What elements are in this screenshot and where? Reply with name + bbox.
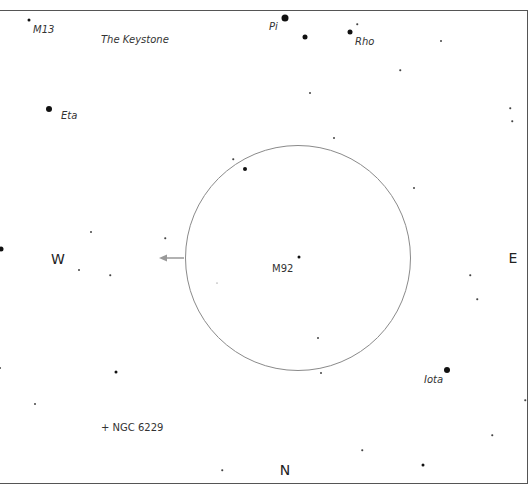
star-icon: [232, 158, 234, 160]
motion-arrow-icon: [0, 0, 532, 496]
star-icon: [320, 372, 322, 374]
star-icon: [469, 274, 471, 276]
star-icon: [356, 23, 358, 25]
pi-star-icon: [282, 15, 289, 22]
label-ngc-6229: + NGC 6229: [101, 422, 163, 433]
star-icon: [109, 274, 111, 276]
compass-west: W: [51, 251, 65, 267]
star-icon: [511, 120, 513, 122]
star-icon: [303, 35, 308, 40]
label-rho: Rho: [355, 36, 374, 47]
star-icon: [309, 92, 311, 94]
finder-chart: M13 The Keystone Pi Rho Eta M92 Iota + N…: [0, 0, 532, 496]
star-icon: [34, 403, 36, 405]
label-iota: Iota: [424, 374, 443, 385]
eta-star-icon: [46, 106, 52, 112]
star-icon: [524, 399, 526, 401]
star-icon: [78, 269, 80, 271]
label-m13: M13: [33, 24, 54, 35]
compass-east: E: [509, 250, 518, 266]
star-icon: [115, 371, 118, 374]
star-icon: [413, 187, 415, 189]
star-icon: [333, 137, 335, 139]
star-icon: [491, 434, 493, 436]
m13-star-icon: [28, 19, 31, 22]
star-icon: [399, 69, 401, 71]
rho-star-icon: [348, 30, 353, 35]
star-icon: [476, 298, 478, 300]
star-icon: [243, 167, 247, 171]
star-icon: [317, 337, 319, 339]
label-pi: Pi: [269, 21, 278, 32]
star-icon: [422, 464, 425, 467]
star-icon: [361, 449, 363, 451]
label-the-keystone: The Keystone: [101, 34, 169, 45]
star-icon: [164, 237, 166, 239]
compass-north: N: [280, 462, 290, 478]
star-icon: [217, 283, 218, 284]
star-icon: [90, 231, 92, 233]
star-icon: [509, 107, 511, 109]
star-icon: [440, 40, 442, 42]
label-m92: M92: [272, 263, 293, 274]
m92-star-icon: [298, 256, 301, 259]
star-icon: [221, 469, 223, 471]
iota-star-icon: [444, 367, 450, 373]
label-eta: Eta: [61, 110, 77, 121]
